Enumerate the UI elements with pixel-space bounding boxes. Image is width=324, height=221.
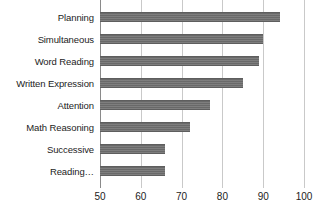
x-tick-label: 60: [135, 191, 146, 203]
bar: [100, 144, 165, 154]
bar: [100, 12, 280, 22]
category-label: Planning: [0, 13, 94, 23]
bar: [100, 56, 259, 66]
x-tick-label: 90: [258, 191, 269, 203]
x-tick-label: 50: [94, 191, 105, 203]
bar: [100, 78, 243, 88]
category-label: Successive: [0, 145, 94, 155]
category-label: Written Expression: [0, 79, 94, 89]
gridline: [141, 0, 142, 188]
bar-chart: Planning Simultaneous Word Reading Writt…: [0, 0, 324, 221]
x-tick-label: 100: [296, 191, 313, 203]
gridline: [304, 0, 305, 188]
category-label: Math Reasoning: [0, 123, 94, 133]
value-axis-line: [100, 0, 101, 188]
gridline: [263, 0, 264, 188]
bar: [100, 34, 263, 44]
x-tick-label: 70: [176, 191, 187, 203]
bar: [100, 122, 190, 132]
gridline: [182, 0, 183, 188]
bar: [100, 166, 165, 176]
x-tick-label: 80: [217, 191, 228, 203]
category-label: Reading…: [0, 167, 94, 177]
category-axis-labels: Planning Simultaneous Word Reading Writt…: [0, 0, 98, 188]
bar: [100, 100, 210, 110]
category-label: Attention: [0, 101, 94, 111]
value-axis-tick-labels: 50 60 70 80 90 100: [100, 191, 304, 211]
category-label: Simultaneous: [0, 35, 94, 45]
plot-area: [100, 0, 304, 188]
category-label: Word Reading: [0, 57, 94, 67]
gridline: [222, 0, 223, 188]
